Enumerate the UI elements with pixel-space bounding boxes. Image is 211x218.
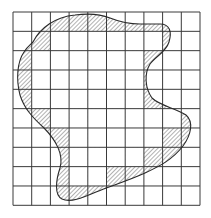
interior-cell: [88, 109, 107, 128]
interior-cell: [107, 51, 126, 70]
interior-cell: [125, 31, 144, 50]
interior-cell: [88, 51, 107, 70]
interior-cell: [88, 31, 107, 50]
interior-cell: [32, 70, 51, 89]
interior-cell: [50, 89, 69, 108]
interior-cell: [107, 31, 126, 50]
interior-cell: [144, 128, 163, 147]
interior-cell: [107, 147, 126, 166]
interior-cell: [69, 147, 88, 166]
interior-cell: [69, 89, 88, 108]
interior-cell: [125, 109, 144, 128]
grid-blob-diagram: [0, 0, 211, 218]
interior-cell: [144, 31, 163, 50]
interior-cell: [69, 128, 88, 147]
interior-cell: [69, 51, 88, 70]
interior-cell: [69, 167, 88, 186]
interior-cell: [32, 51, 51, 70]
interior-cell: [125, 70, 144, 89]
interior-cell: [125, 51, 144, 70]
interior-cell: [125, 128, 144, 147]
interior-cell: [88, 70, 107, 89]
interior-cell: [144, 109, 163, 128]
interior-cell: [69, 31, 88, 50]
interior-cell: [107, 128, 126, 147]
interior-cell: [50, 31, 69, 50]
interior-cell: [69, 109, 88, 128]
interior-cell: [69, 70, 88, 89]
interior-cell: [88, 147, 107, 166]
interior-cell: [107, 109, 126, 128]
interior-cell: [50, 51, 69, 70]
interior-cell: [50, 109, 69, 128]
interior-cell: [125, 89, 144, 108]
interior-cell: [88, 128, 107, 147]
interior-cell: [88, 89, 107, 108]
interior-cell: [32, 89, 51, 108]
interior-cell: [107, 70, 126, 89]
interior-cell: [125, 147, 144, 166]
interior-cell: [50, 70, 69, 89]
interior-cell: [107, 89, 126, 108]
interior-cell: [88, 167, 107, 186]
